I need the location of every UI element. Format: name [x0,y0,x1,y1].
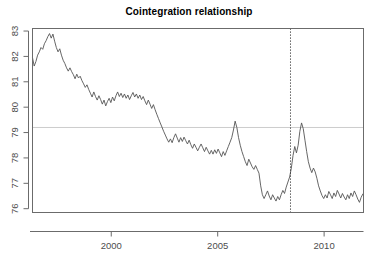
chart-root: Cointegration relationship 7677787980818… [0,0,378,263]
plot-series-group [33,34,363,203]
y-tick-label: 79 [10,127,21,138]
y-tick-label: 76 [10,203,21,214]
x-tick-label: 2010 [314,240,335,251]
x-axis: 200020052010 [30,232,364,252]
y-tick-label: 78 [10,153,21,164]
cointegration-residual-line [33,34,363,203]
plot-frame-box [33,29,364,213]
y-tick-label: 77 [10,178,21,189]
y-axis: 7677787980818283 [10,26,29,214]
x-tick-label: 2005 [207,240,228,251]
y-tick-label: 80 [10,102,21,113]
y-tick-label: 82 [10,51,21,62]
line-chart-canvas: 7677787980818283 200020052010 [0,0,378,263]
y-tick-label: 83 [10,26,21,37]
x-tick-label: 2000 [101,240,122,251]
y-tick-label: 81 [10,77,21,88]
